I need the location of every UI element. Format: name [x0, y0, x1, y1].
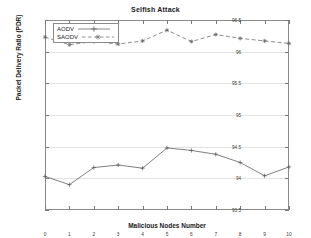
y-tick-label: 95 — [236, 113, 241, 118]
chart-title: Selfish Attack — [0, 6, 311, 13]
x-tick-label: 8 — [239, 232, 242, 237]
x-tick-label: 9 — [263, 232, 266, 237]
data-point-marker — [214, 32, 218, 36]
y-tick-label: 93.5 — [232, 208, 241, 213]
data-point-marker — [189, 39, 193, 43]
data-point-marker — [189, 148, 193, 152]
data-point-marker — [263, 39, 267, 43]
y-axis-label: Packet Delivery Ratio (PDR) — [15, 0, 22, 138]
data-point-marker — [116, 163, 120, 167]
legend-item-saodv: SAODV — [57, 33, 115, 41]
data-point-marker — [263, 174, 267, 178]
data-point-marker — [214, 152, 218, 156]
x-tick-label: 10 — [286, 232, 291, 237]
y-tick-label: 96 — [236, 49, 241, 54]
x-tick-label: 1 — [68, 232, 71, 237]
plot-area: AODV SAODV 93.59494.59595.59696.50123456… — [45, 20, 289, 210]
legend-label-aodv: AODV — [57, 26, 74, 32]
data-point-marker — [43, 35, 47, 39]
x-tick-label: 2 — [92, 232, 95, 237]
y-tick-label: 94 — [236, 176, 241, 181]
data-point-marker — [238, 160, 242, 164]
series-layer — [45, 20, 289, 210]
data-point-marker — [67, 43, 71, 47]
series-line-aodv — [45, 148, 289, 185]
x-tick-label: 5 — [166, 232, 169, 237]
y-tick-label: 96.5 — [232, 18, 241, 23]
legend-label-saodv: SAODV — [57, 34, 78, 40]
data-point-marker — [287, 165, 291, 169]
x-tick-label: 7 — [214, 232, 217, 237]
legend-item-aodv: AODV — [57, 25, 115, 33]
x-tick-label: 4 — [141, 232, 144, 237]
y-tick-mark — [285, 210, 289, 211]
x-tick-label: 3 — [117, 232, 120, 237]
data-point-marker — [141, 39, 145, 43]
legend-sample-saodv — [81, 33, 115, 41]
x-tick-mark — [289, 206, 290, 210]
legend-sample-aodv — [77, 25, 111, 33]
y-tick-mark — [45, 210, 49, 211]
y-tick-label: 95.5 — [232, 81, 241, 86]
x-tick-label: 0 — [44, 232, 47, 237]
y-tick-label: 94.5 — [232, 144, 241, 149]
x-tick-mark — [289, 20, 290, 24]
chart-legend: AODV SAODV — [53, 23, 119, 43]
x-tick-label: 6 — [190, 232, 193, 237]
data-point-marker — [165, 28, 169, 32]
x-axis-label: Malicious Nodes Number — [45, 222, 289, 229]
data-point-marker — [43, 174, 47, 178]
chart-figure: Selfish Attack Packet Delivery Ratio (PD… — [0, 0, 311, 238]
data-point-marker — [238, 36, 242, 40]
data-point-marker — [287, 41, 291, 45]
